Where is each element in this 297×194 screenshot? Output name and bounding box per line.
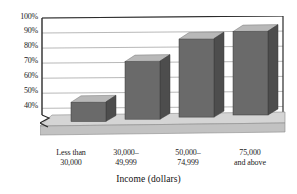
y-axis-tick-40: 40%: [24, 102, 38, 110]
bar-50000-74999: [179, 32, 224, 117]
y-axis-tick-labels: 100% 90% 80% 70% 60% 50% 40%: [6, 0, 38, 194]
y-axis-tick-80: 80%: [24, 42, 38, 50]
x-axis-tick-labels: Less than 30,000 30,000– 49,999 50,000– …: [38, 148, 288, 176]
y-axis-tick-100: 100%: [20, 13, 38, 21]
bar-75000-and-above: [233, 25, 278, 115]
x-axis-tick-50000-74999: 50,000– 74,999: [156, 148, 220, 167]
x-axis-title: Income (dollars): [0, 174, 297, 184]
x-axis-tick-30000-49999: 30,000– 49,999: [94, 148, 158, 167]
bar-30000-49999: [125, 55, 170, 120]
bar-less-than-30000: [71, 95, 116, 121]
y-axis-tick-50: 50%: [24, 87, 38, 95]
plot-area: [40, 16, 284, 120]
x-axis-tick-75000-and-above: 75,000 and above: [214, 148, 286, 167]
y-axis-tick-90: 90%: [24, 27, 38, 35]
bar-chart: 100% 90% 80% 70% 60% 50% 40%: [0, 0, 297, 194]
y-axis-tick-60: 60%: [24, 72, 38, 80]
y-axis-tick-70: 70%: [24, 57, 38, 65]
